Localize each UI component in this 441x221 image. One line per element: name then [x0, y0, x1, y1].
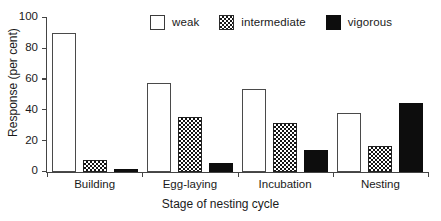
bar-chart-figure: weak intermediate vigorous 020406080100 … — [0, 0, 441, 221]
bar-egg-laying-intermediate — [178, 117, 202, 172]
bar-egg-laying-weak — [147, 83, 171, 172]
y-axis-tick-label: 0 — [32, 166, 38, 178]
y-axis-title: Response (per cent) — [7, 8, 20, 158]
x-axis-category-label: Nesting — [361, 178, 400, 190]
bar-building-intermediate — [83, 160, 107, 172]
y-axis-tick: 80 — [42, 48, 47, 49]
x-axis-title: Stage of nesting cycle — [0, 198, 441, 211]
bar-incubation-weak — [242, 89, 266, 172]
plot-area: 020406080100 — [47, 18, 428, 172]
x-axis-category-label: Egg-laying — [163, 178, 217, 190]
x-axis-tick — [142, 172, 143, 177]
bar-egg-laying-vigorous — [209, 163, 233, 172]
bar-nesting-intermediate — [368, 146, 392, 172]
y-axis-line — [46, 18, 47, 173]
bar-incubation-vigorous — [304, 150, 328, 172]
x-axis-tick — [428, 172, 429, 177]
y-axis-tick-label: 40 — [25, 104, 38, 116]
bar-nesting-vigorous — [399, 103, 423, 172]
x-axis-tick — [238, 172, 239, 177]
x-axis-category-label: Incubation — [259, 178, 312, 190]
y-axis-tick: 20 — [42, 140, 47, 141]
y-axis-tick: 60 — [42, 78, 47, 79]
y-axis-tick: 40 — [42, 109, 47, 110]
y-axis-tick-label: 20 — [25, 135, 38, 147]
x-axis-tick — [333, 172, 334, 177]
y-axis-tick-label: 60 — [25, 73, 38, 85]
bar-incubation-intermediate — [273, 123, 297, 172]
y-axis-tick: 100 — [42, 17, 47, 18]
bar-building-vigorous — [114, 169, 138, 172]
x-axis-category-label: Building — [74, 178, 115, 190]
bar-nesting-weak — [337, 113, 361, 172]
bar-building-weak — [52, 33, 76, 172]
y-axis-tick-label: 100 — [19, 12, 38, 24]
x-axis-tick — [47, 172, 48, 177]
y-axis-tick-label: 80 — [25, 42, 38, 54]
